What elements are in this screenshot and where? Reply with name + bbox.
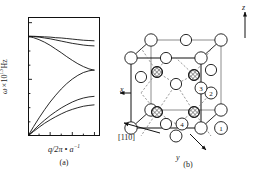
x-axis-label: q/2π • a−1 — [28, 145, 100, 154]
unit-cell-diagram: 1 2 3 4 — [118, 0, 258, 176]
atom-2-label: 2 — [209, 90, 213, 98]
axis-label-x: x — [120, 86, 124, 94]
y-axis-label: ω × 1013 Hz — [0, 17, 11, 136]
panel-a-phonon-dispersion: 4 2 0 1 2 3 ω × 1013 Hz q/2π • a−1 (a) — [0, 0, 126, 190]
atom-1-label: 1 — [219, 125, 223, 133]
axis-label-z: z — [242, 4, 245, 12]
panel-b-caption: (b) — [118, 160, 258, 169]
atom-4-label: 4 — [180, 121, 184, 129]
panel-b-crystal-structure: 1 2 3 4 z x y [110] (b) — [118, 0, 258, 190]
cube-front-edges — [131, 58, 201, 128]
atom-3-label: 3 — [199, 85, 203, 93]
curve-ta-1 — [28, 96, 94, 136]
figure-root: 4 2 0 1 2 3 ω × 1013 Hz q/2π • a−1 (a) — [0, 0, 258, 190]
panel-a-caption: (a) — [28, 158, 100, 167]
dispersion-curves — [28, 17, 100, 136]
y-axis-arrow — [190, 134, 206, 150]
direction-label-110: [110] — [118, 134, 135, 142]
